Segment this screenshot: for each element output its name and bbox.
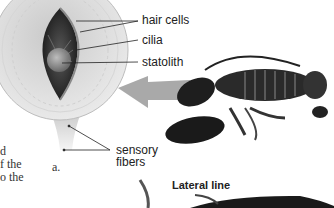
label-fibers: fibers — [116, 156, 145, 169]
statocyst-illustration — [0, 0, 128, 150]
label-statolith: statolith — [142, 56, 183, 69]
diagram-canvas — [0, 0, 334, 208]
body-text-line-3: o the — [0, 170, 24, 185]
panel-label: a. — [52, 160, 60, 175]
label-hair-cells: hair cells — [142, 14, 189, 27]
lobster-illustration — [163, 56, 328, 148]
fish-illustration — [140, 180, 334, 208]
label-cilia: cilia — [142, 34, 163, 47]
section-title-lateral-line: Lateral line — [172, 179, 230, 192]
